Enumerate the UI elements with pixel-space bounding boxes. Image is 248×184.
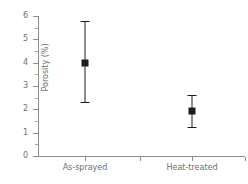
x-tick-label: Heat-treated — [166, 163, 217, 172]
error-bar-cap-lower — [81, 102, 90, 103]
data-point-marker — [82, 59, 89, 66]
x-tick-mark — [192, 157, 193, 161]
y-minor-tick-mark — [35, 74, 38, 75]
y-minor-tick-mark — [35, 98, 38, 99]
y-tick-mark — [33, 63, 38, 64]
y-tick-mark — [33, 109, 38, 110]
y-tick-label: 5 — [0, 35, 28, 43]
x-tick-label: As-sprayed — [63, 163, 108, 172]
y-tick-mark — [33, 39, 38, 40]
x-tick-mark — [85, 157, 86, 161]
y-minor-tick-mark — [35, 51, 38, 52]
error-bar-cap-lower — [188, 127, 197, 128]
y-tick-label: 6 — [0, 12, 28, 20]
y-tick-label: 0 — [0, 152, 28, 160]
y-tick-label: 1 — [0, 129, 28, 137]
y-tick-mark — [33, 86, 38, 87]
error-bar-cap-upper — [81, 21, 90, 22]
porosity-error-bar-chart: Porosity (%) 0123456 As-sprayedHeat-trea… — [0, 0, 248, 184]
y-tick-mark — [33, 156, 38, 157]
x-tick-mark — [140, 157, 141, 161]
y-minor-tick-mark — [35, 28, 38, 29]
x-axis-line — [38, 156, 245, 157]
plot-area: Porosity (%) 0123456 As-sprayedHeat-trea… — [38, 16, 245, 156]
y-minor-tick-mark — [35, 121, 38, 122]
y-tick-label: 2 — [0, 105, 28, 113]
x-tick-mark — [245, 157, 246, 161]
y-axis-title: Porosity (%) — [41, 13, 50, 123]
y-tick-label: 3 — [0, 82, 28, 90]
error-bar-cap-upper — [188, 95, 197, 96]
y-tick-mark — [33, 133, 38, 134]
y-tick-label: 4 — [0, 59, 28, 67]
data-point-marker — [189, 107, 196, 114]
y-tick-mark — [33, 16, 38, 17]
y-minor-tick-mark — [35, 144, 38, 145]
